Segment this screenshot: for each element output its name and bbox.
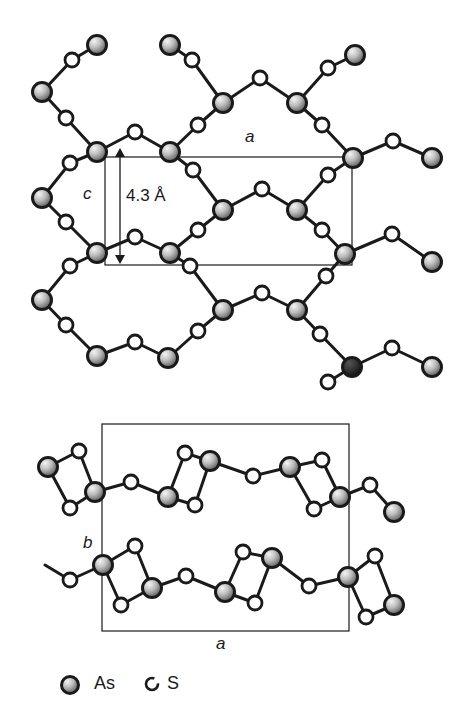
legend-as-label: As bbox=[94, 673, 115, 694]
arsenic-atom bbox=[281, 458, 300, 477]
sulfur-atom bbox=[319, 269, 333, 283]
sulfur-atom bbox=[253, 71, 267, 85]
axis-a-label-side: a bbox=[216, 634, 225, 654]
arsenic-atom bbox=[159, 488, 178, 507]
sulfur-atom bbox=[63, 156, 77, 170]
arrow-up-icon bbox=[115, 148, 125, 157]
arsenic-atom bbox=[161, 36, 180, 55]
sulfur-atom bbox=[128, 230, 142, 244]
sulfur-atom bbox=[188, 498, 202, 512]
arsenic-atom bbox=[161, 244, 180, 263]
arsenic-atom bbox=[423, 253, 442, 272]
sulfur-atom bbox=[178, 446, 192, 460]
sulfur-atom bbox=[236, 545, 250, 559]
sulfur-atom bbox=[191, 324, 205, 338]
sulfur-atom bbox=[59, 215, 73, 229]
arsenic-atom bbox=[33, 291, 52, 310]
sulfur-atom bbox=[59, 318, 73, 332]
sulfur-atom bbox=[128, 335, 142, 349]
sulfur-atom bbox=[128, 125, 142, 139]
arsenic-atom bbox=[216, 583, 235, 602]
sulfur-atom bbox=[246, 469, 260, 483]
side-view bbox=[39, 424, 404, 631]
legend-s-label: S bbox=[167, 673, 179, 694]
sulfur-atom bbox=[183, 259, 197, 273]
arsenic-atom bbox=[423, 149, 442, 168]
sulfur-atom bbox=[386, 134, 400, 148]
sulfur-atom bbox=[385, 341, 399, 355]
structure-figure bbox=[0, 0, 470, 717]
arsenic-atom bbox=[33, 83, 52, 102]
arsenic-atom bbox=[288, 201, 307, 220]
axis-c-label: c bbox=[83, 184, 92, 204]
sulfur-atom bbox=[65, 53, 79, 67]
arsenic-atom bbox=[33, 189, 52, 208]
spacing-label: 4.3 Å bbox=[126, 186, 166, 206]
sulfur-atom bbox=[114, 598, 128, 612]
sulfur-atom bbox=[315, 118, 329, 132]
sulfur-atom bbox=[321, 375, 335, 389]
arsenic-atom bbox=[201, 452, 220, 471]
arsenic-atom bbox=[214, 201, 233, 220]
sulfur-atom bbox=[63, 501, 77, 515]
top-view bbox=[33, 36, 442, 390]
arsenic-atom bbox=[423, 358, 442, 377]
sulfur-atom bbox=[307, 502, 321, 516]
sulfur-atom bbox=[363, 478, 377, 492]
sulfur-atom bbox=[63, 259, 77, 273]
sulfur-atom bbox=[255, 182, 269, 196]
arsenic-atom bbox=[214, 301, 233, 320]
arsenic-atom bbox=[88, 36, 107, 55]
arsenic-atom bbox=[39, 458, 58, 477]
sulfur-atom bbox=[186, 163, 200, 177]
sulfur-atom bbox=[315, 223, 329, 237]
arsenic-atom bbox=[88, 244, 107, 263]
sulfur-atom bbox=[72, 444, 86, 458]
arsenic-atom bbox=[88, 347, 107, 366]
arsenic-atom bbox=[214, 94, 233, 113]
sulfur-atom bbox=[191, 118, 205, 132]
sulfur-atom bbox=[124, 475, 138, 489]
arsenic-atom bbox=[331, 488, 350, 507]
bonds-top bbox=[42, 45, 432, 382]
sulfur-atom bbox=[313, 327, 327, 341]
arsenic-atom bbox=[346, 46, 365, 65]
legend-as-icon bbox=[62, 677, 79, 694]
arsenic-atom bbox=[344, 149, 363, 168]
axis-b-label: b bbox=[83, 533, 92, 553]
spacing-arrow bbox=[115, 148, 125, 264]
sulfur-atom bbox=[368, 549, 382, 563]
arsenic-atom bbox=[385, 503, 404, 522]
arsenic-atom bbox=[94, 556, 113, 575]
arrow-down-icon bbox=[115, 255, 125, 264]
arsenic-atom bbox=[343, 358, 362, 377]
arsenic-atom bbox=[161, 143, 180, 162]
sulfur-atom bbox=[248, 596, 262, 610]
arsenic-atom bbox=[385, 596, 404, 615]
arsenic-atom bbox=[263, 549, 282, 568]
arsenic-atom bbox=[288, 94, 307, 113]
sulfur-atom bbox=[191, 223, 205, 237]
sulfur-atom bbox=[179, 569, 193, 583]
arsenic-atom bbox=[288, 301, 307, 320]
legend-s-icon bbox=[146, 678, 158, 690]
arsenic-atom bbox=[86, 483, 105, 502]
sulfur-atom bbox=[315, 453, 329, 467]
arsenic-atom bbox=[336, 245, 355, 264]
arsenic-atom bbox=[88, 143, 107, 162]
sulfur-atom bbox=[59, 111, 73, 125]
arsenic-atom bbox=[159, 349, 178, 368]
sulfur-atom bbox=[255, 286, 269, 300]
sulfur-atom bbox=[302, 579, 316, 593]
sulfur-atom bbox=[321, 61, 335, 75]
sulfur-atom bbox=[385, 227, 399, 241]
sulfur-atom bbox=[185, 53, 199, 67]
arsenic-atom bbox=[339, 568, 358, 587]
sulfur-atom bbox=[63, 573, 77, 587]
atoms-top bbox=[33, 36, 442, 390]
sulfur-atom bbox=[359, 610, 373, 624]
sulfur-atom bbox=[321, 168, 335, 182]
sulfur-atom bbox=[128, 539, 142, 553]
axis-a-label-top: a bbox=[245, 127, 254, 147]
arsenic-atom bbox=[143, 579, 162, 598]
